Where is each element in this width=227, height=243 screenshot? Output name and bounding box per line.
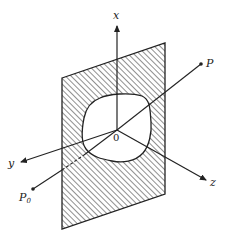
- point-p-dot: [199, 62, 203, 66]
- ray-p0-segment: [33, 170, 62, 189]
- point-p0-subscript: 0: [26, 197, 30, 205]
- origin-label: 0: [113, 133, 119, 143]
- y-axis-label: y: [8, 158, 14, 169]
- diffraction-diagram: [0, 0, 227, 243]
- point-p0-label: P0: [19, 192, 31, 205]
- z-axis-label: z: [210, 177, 216, 188]
- point-p-label: P: [206, 58, 213, 69]
- point-p0-dot: [31, 187, 35, 191]
- x-axis-label: x: [113, 10, 119, 21]
